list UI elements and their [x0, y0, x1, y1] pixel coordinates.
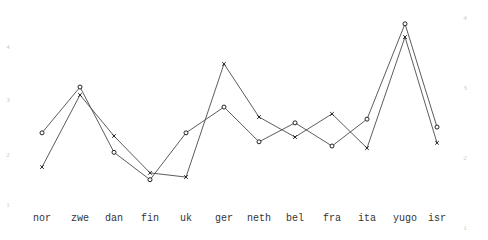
circle-marker-icon [330, 144, 334, 148]
category-label: ger [215, 213, 233, 224]
circle-marker-icon [148, 178, 152, 182]
category-label: nor [33, 213, 51, 224]
category-label: yugo [393, 213, 417, 224]
series-group [40, 22, 439, 182]
category-label: isr [428, 213, 446, 224]
category-label: neth [247, 213, 271, 224]
circle-marker-icon [403, 22, 407, 26]
circle-marker-icon [222, 105, 226, 109]
left-tick-label: 4 [6, 43, 10, 51]
left-tick-label: 2 [6, 151, 10, 159]
category-label: bel [286, 213, 304, 224]
category-label: zwe [71, 213, 89, 224]
left-tick-label: 1 [6, 201, 10, 209]
circle-marker-icon [112, 150, 116, 154]
line-chart: 4321 4321 norzwedanfinukgernethbelfraita… [0, 0, 488, 240]
circle-marker-icon [40, 131, 44, 135]
circle-marker-icon [78, 85, 82, 89]
cross-marker-icon [293, 135, 297, 139]
category-label: dan [105, 213, 123, 224]
circle-marker-icon [365, 117, 369, 121]
cross-marker-icon [330, 112, 334, 116]
right-tick-label: 1 [463, 224, 467, 232]
series-line [42, 37, 437, 177]
right-axis: 4321 [463, 14, 467, 232]
category-label: fra [323, 213, 341, 224]
category-label: fin [141, 213, 159, 224]
circle-marker-icon [435, 125, 439, 129]
right-tick-label: 3 [463, 84, 467, 92]
circle-marker-icon [184, 131, 188, 135]
left-tick-label: 3 [6, 96, 10, 104]
x-axis-labels: norzwedanfinukgernethbelfraitayugoisr [33, 213, 446, 224]
right-tick-label: 2 [463, 154, 467, 162]
right-tick-label: 4 [463, 14, 467, 22]
left-axis: 4321 [6, 43, 10, 209]
category-label: uk [180, 213, 192, 224]
cross-marker-icon [257, 115, 261, 119]
series-x [40, 35, 439, 179]
circle-marker-icon [257, 140, 261, 144]
circle-marker-icon [293, 121, 297, 125]
series-o [40, 22, 439, 182]
cross-marker-icon [112, 134, 116, 138]
series-line [42, 24, 437, 180]
cross-marker-icon [78, 93, 82, 97]
cross-marker-icon [40, 165, 44, 169]
category-label: ita [358, 213, 376, 224]
